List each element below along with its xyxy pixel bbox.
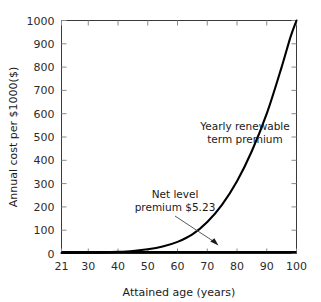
x-tick-label: 90 — [260, 260, 274, 273]
x-tick-label: 70 — [200, 260, 214, 273]
y-tick-label: 900 — [34, 38, 55, 51]
y-tick-label: 700 — [34, 84, 55, 97]
y-tick-label: 600 — [34, 108, 55, 121]
x-tick-label: 100 — [286, 260, 307, 273]
net-level-premium-line2: premium $5.23 — [135, 201, 216, 213]
y-tick-label: 400 — [34, 154, 55, 167]
y-tick-label: 100 — [34, 224, 55, 237]
x-tick-label: 60 — [171, 260, 185, 273]
y-tick-label: 200 — [34, 201, 55, 214]
y-tick-label: 300 — [34, 178, 55, 191]
x-tick-label: 80 — [230, 260, 244, 273]
y-tick-label: 800 — [34, 61, 55, 74]
yearly-renewable-term-premium-line1: Yearly renewable — [199, 120, 289, 132]
yearly-renewable-term-premium-line2: term premium — [207, 133, 283, 145]
x-tick-label: 21 — [55, 260, 69, 273]
y-tick-label: 1000 — [27, 15, 55, 28]
y-tick-label: 0 — [48, 248, 55, 261]
net-level-premium-line1: Net level — [152, 188, 199, 200]
x-axis-title: Attained age (years) — [123, 286, 236, 299]
y-tick-label: 500 — [34, 131, 55, 144]
x-tick-label: 50 — [141, 260, 155, 273]
chart-figure: 01002003004005006007008009001000 2130405… — [0, 0, 321, 302]
y-axis-title: Annual cost per $1000($) — [7, 67, 20, 207]
x-tick-label: 30 — [81, 260, 95, 273]
x-tick-label: 40 — [111, 260, 125, 273]
yearly-renewable-term-premium-annotation: Yearly renewable term premium — [199, 120, 289, 145]
x-axis-tick-labels: 2130405060708090100 — [55, 260, 308, 273]
premium-cost-line-chart: 01002003004005006007008009001000 2130405… — [0, 0, 321, 302]
